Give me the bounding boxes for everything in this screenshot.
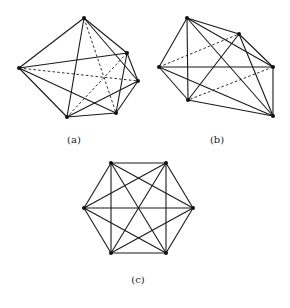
vertex-UR: [125, 51, 129, 55]
vertex-BL: [109, 251, 113, 255]
edge-L-BL: [159, 67, 188, 100]
edge-TR-L: [84, 163, 166, 208]
vertex-R: [271, 65, 275, 69]
vertex-T: [185, 16, 189, 20]
graph-figure-canvas: [0, 0, 290, 308]
edge-T-BL: [67, 18, 84, 117]
edge-T-UR: [187, 18, 239, 34]
vertex-T: [82, 16, 86, 20]
vertex-L: [82, 206, 86, 210]
edge-T-L: [159, 18, 187, 67]
vertex-BR: [114, 111, 118, 115]
edge-TR-R: [166, 163, 193, 208]
vertex-BR: [271, 114, 275, 118]
caption-c: (c): [131, 274, 144, 285]
vertex-L: [17, 66, 21, 70]
edge-T-BR-dashed: [84, 18, 116, 113]
vertex-R: [136, 79, 140, 83]
caption-b: (b): [210, 134, 224, 145]
vertex-TR: [164, 161, 168, 165]
vertex-UR: [237, 32, 241, 36]
edge-L-BL: [84, 208, 111, 253]
edge-R-BL: [111, 208, 193, 253]
edge-T-BL: [187, 18, 188, 100]
vertex-BR: [164, 251, 168, 255]
edge-TL-L: [84, 163, 111, 208]
vertex-L: [157, 65, 161, 69]
vertex-BL: [186, 98, 190, 102]
vertex-R: [191, 206, 195, 210]
edge-R-BR: [166, 208, 193, 253]
edge-L-BR: [84, 208, 166, 253]
edge-UR-R: [127, 53, 138, 81]
figure-b: [157, 16, 275, 118]
edge-BL-BR: [188, 100, 273, 116]
edge-R-BL: [67, 81, 138, 117]
caption-a: (a): [67, 134, 81, 145]
edge-T-R: [84, 18, 138, 81]
edge-L-UR-dashed: [159, 34, 239, 67]
edge-T-UR: [84, 18, 127, 53]
edge-T-R: [187, 18, 273, 67]
edge-L-BR: [19, 68, 116, 113]
figure-c: [82, 161, 195, 255]
edge-L-R-dashed: [19, 68, 138, 81]
vertex-TL: [109, 161, 113, 165]
vertex-BL: [65, 115, 69, 119]
edge-L-BL: [19, 68, 67, 117]
figure-a: [17, 16, 140, 119]
